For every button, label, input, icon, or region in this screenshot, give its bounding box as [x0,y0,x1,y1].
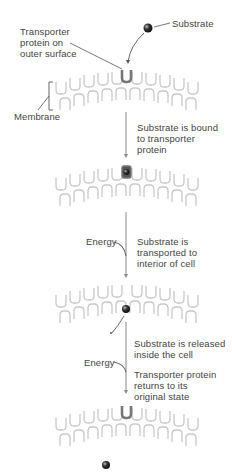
transporter-label-line: outer surface [20,48,77,59]
transporter-label-line: protein on [20,37,77,48]
substrate-molecule [144,24,153,33]
membrane-label: Membrane [14,111,60,122]
step-3a-text: Substrate is released inside the cell [134,338,225,360]
transporter-protein [122,70,131,82]
step-text-line: protein [137,144,218,155]
step-text-line: interior of cell [137,258,197,269]
membrane-2 [56,166,198,206]
step-3b-text: Transporter protein returns to its origi… [134,369,216,402]
energy-arrow-2 [114,362,126,372]
substrate-label: Substrate [172,18,214,29]
step-text-line: to transporter [137,133,218,144]
membrane-3 [56,285,198,323]
energy-label-2: Energy [84,357,115,368]
step-2-text: Substrate is transported to interior of … [137,236,197,269]
step-text-line: Substrate is bound [137,122,218,133]
step-text-line: Substrate is released [134,338,225,349]
step-text-line: Substrate is [137,236,197,247]
step-text-line: inside the cell [134,349,225,360]
membrane-4 [56,406,198,446]
step-text-line: original state [134,391,216,402]
transporter-label: Transporter protein on outer surface [20,26,77,59]
membrane-1 [56,70,198,110]
step-text-line: Transporter protein [134,369,216,380]
transporter-label-line: Transporter [20,26,77,37]
energy-label-1: Energy [86,236,117,247]
step-1-text: Substrate is bound to transporter protei… [137,122,218,155]
step-text-line: returns to its [134,380,216,391]
step-text-line: transported to [137,247,197,258]
released-substrate [102,461,110,469]
membrane-bracket [49,82,53,110]
